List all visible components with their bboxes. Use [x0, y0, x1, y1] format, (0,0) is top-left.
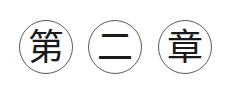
character-zhang: 章 — [167, 30, 203, 66]
circle-badge-2: 二 — [88, 20, 142, 74]
circle-badge-1: 第 — [19, 20, 73, 74]
character-er: 二 — [97, 30, 133, 66]
circle-badge-3: 章 — [158, 20, 212, 74]
character-di: 第 — [28, 30, 64, 66]
